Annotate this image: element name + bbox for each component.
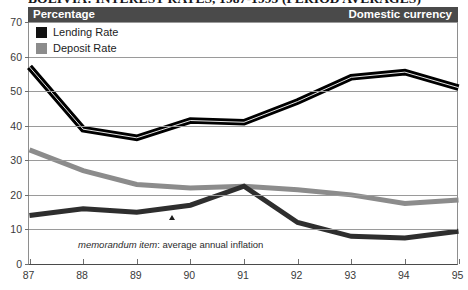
header-right-label: Domestic currency	[348, 7, 452, 22]
y-axis-label: 40	[0, 121, 22, 131]
x-axis-tick	[459, 259, 460, 264]
memorandum-rest: : average annual inflation	[157, 239, 263, 250]
triangle-marker-icon	[169, 215, 175, 220]
x-axis-label: 88	[67, 269, 97, 281]
legend-swatch-icon	[36, 27, 47, 38]
y-axis-tick	[25, 22, 29, 23]
gridline	[29, 126, 457, 127]
y-axis-tick	[25, 126, 29, 127]
y-axis-label: 50	[0, 86, 22, 96]
x-axis-label: 95	[443, 269, 468, 281]
x-axis-tick	[351, 259, 352, 264]
x-axis-label: 87	[14, 269, 44, 281]
x-axis-tick	[298, 259, 299, 264]
y-axis-label: 0	[0, 259, 22, 269]
legend-swatch-icon	[36, 43, 47, 54]
y-axis-label: 70	[0, 17, 22, 27]
x-axis-label: 89	[121, 269, 151, 281]
y-axis-label: 10	[0, 224, 22, 234]
gridline	[29, 195, 457, 196]
gridline	[29, 91, 457, 92]
x-axis-tick	[30, 259, 31, 264]
x-axis-label: 90	[174, 269, 204, 281]
x-axis-tick	[190, 259, 191, 264]
x-axis-label: 91	[228, 269, 258, 281]
header-left-label: Percentage	[33, 7, 95, 22]
y-axis-label: 30	[0, 155, 22, 165]
series-line-outline	[30, 67, 459, 138]
y-axis-tick	[25, 160, 29, 161]
series-line	[30, 186, 459, 238]
legend-item-deposit: Deposit Rate	[36, 42, 118, 55]
plot-area	[28, 22, 458, 265]
y-axis-tick	[25, 264, 29, 265]
x-axis-label: 93	[335, 269, 365, 281]
memorandum-annotation: memorandum item: average annual inflatio…	[78, 239, 263, 250]
y-axis-tick	[25, 57, 29, 58]
x-axis-label: 94	[389, 269, 419, 281]
x-axis-label: 92	[282, 269, 312, 281]
gridline	[29, 229, 457, 230]
legend: Lending Rate Deposit Rate	[36, 26, 118, 58]
x-axis-tick	[244, 259, 245, 264]
x-axis-tick	[405, 259, 406, 264]
x-axis-tick	[137, 259, 138, 264]
y-axis-label: 20	[0, 190, 22, 200]
header-band: Percentage Domestic currency	[28, 7, 458, 22]
legend-label-lending: Lending Rate	[53, 27, 118, 38]
y-axis-tick	[25, 229, 29, 230]
gridline	[29, 22, 457, 23]
legend-item-lending: Lending Rate	[36, 26, 118, 39]
y-axis-tick	[25, 91, 29, 92]
memorandum-italic: memorandum item	[78, 239, 157, 250]
series-line-highlight	[30, 67, 459, 138]
y-axis-label: 60	[0, 52, 22, 62]
chart-title: BOLIVIA: INTEREST RATES, 1987-1995 (PERI…	[28, 0, 458, 7]
x-axis-tick	[83, 259, 84, 264]
legend-label-deposit: Deposit Rate	[53, 43, 117, 54]
y-axis-tick	[25, 195, 29, 196]
gridline	[29, 160, 457, 161]
